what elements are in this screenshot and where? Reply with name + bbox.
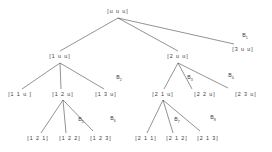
branch-label-b4: B4 [228,73,233,81]
tree-node-n11: [1 1 u ] [8,92,32,97]
tree-node-n213: [2 1 3] [197,136,218,141]
tree-edge-n21-n213 [163,100,200,131]
branch-label-b5: B5 [78,117,83,125]
tree-node-n121: [1 2 1] [27,136,48,141]
tree-edge-n12-n122 [63,100,66,133]
branch-label-b7: B7 [174,117,179,125]
tree-node-n13: [1 3 u] [95,92,116,97]
branch-label-b8: B8 [210,115,215,123]
tree-node-n3: [3 u u] [232,47,253,52]
tree-node-n212: [2 1 2] [166,136,187,141]
tree-node-n122: [1 2 2] [59,136,80,141]
tree-node-n23: [2 3 u] [235,92,256,97]
tree-edge-n2-n21 [164,63,178,89]
tree-diagram: [u u u][1 u u][2 u u][3 u u][1 1 u ][1 2… [0,0,272,152]
tree-node-n123: [1 2 3] [90,136,111,141]
tree-node-n12: [1 2 u] [52,92,73,97]
tree-edge-root-n3 [118,18,234,44]
tree-edge-n21-n211 [147,100,163,133]
tree-node-n22: [2 2 u] [194,92,215,97]
tree-edge-root-n1 [60,18,118,51]
tree-edge-n1-n13 [60,63,104,89]
branch-label-b2: B2 [116,75,121,83]
tree-node-n211: [2 1 1] [135,136,156,141]
tree-node-n1: [1 u u] [49,54,70,59]
tree-edge-n1-n12 [60,63,61,89]
tree-edge-root-n2 [118,18,178,51]
branch-label-b3: B3 [187,75,192,83]
tree-edge-n1-n11 [22,63,60,89]
tree-node-root: [u u u] [107,9,128,14]
tree-node-n21: [2 1 u] [152,92,173,97]
tree-edge-n21-n212 [163,100,173,133]
tree-edge-n12-n121 [41,100,63,133]
tree-node-n2: [2 u u] [167,54,188,59]
tree-edge-n2-n23 [178,63,228,88]
branch-label-b6: B6 [110,116,115,124]
branch-label-b1: B1 [242,33,247,41]
